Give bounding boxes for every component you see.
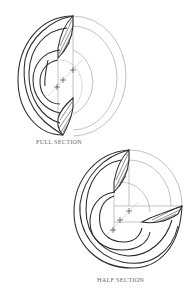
half-section-caption: HALF SECTION [97, 276, 144, 283]
half-section-hatch-top [114, 150, 129, 192]
full-section-axis [48, 60, 82, 96]
full-section-drawing [18, 16, 126, 136]
section-views-diagram: FULL SECTION HALF SECTION [0, 0, 194, 294]
half-section-phantom-circles [118, 150, 182, 212]
half-section-hatch-right [142, 206, 182, 223]
full-section-hatch-top [58, 16, 73, 58]
half-section-axis [106, 202, 138, 236]
full-section-caption: FULL SECTION [36, 138, 82, 145]
drawing-canvas [0, 0, 194, 294]
full-section-hatch-bottom [58, 98, 73, 135]
half-section-center-marks [110, 208, 132, 233]
full-section-body-outlines [18, 16, 73, 135]
half-section-drawing [74, 150, 182, 268]
